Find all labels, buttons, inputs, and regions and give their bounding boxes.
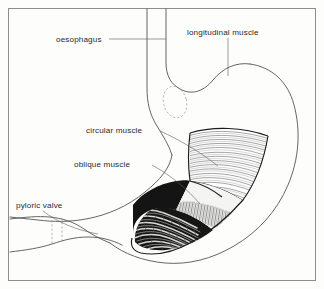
- oesophagus-right-wall: [166, 9, 250, 92]
- wedge-left-edge: [189, 133, 191, 181]
- label-longitudinal-muscle: longitudinal muscle: [187, 28, 259, 37]
- label-pyloric-valve: pyloric valve: [16, 201, 63, 210]
- label-circular-muscle: circular muscle: [86, 126, 143, 135]
- diagram-canvas: oesophagus longitudinal muscle circular …: [0, 0, 324, 289]
- leader-pyloric-valve: [43, 211, 98, 234]
- label-oblique-muscle: oblique muscle: [74, 160, 130, 169]
- label-oesophagus: oesophagus: [56, 35, 102, 44]
- antrum-lower-wall: [10, 217, 110, 243]
- cardiac-sphincter-ellipse: [160, 84, 190, 121]
- oesophagus-left-wall: [147, 9, 172, 155]
- duodenum-lower-wall: [10, 237, 122, 252]
- stomach-diagram-figure: oesophagus longitudinal muscle circular …: [0, 0, 324, 289]
